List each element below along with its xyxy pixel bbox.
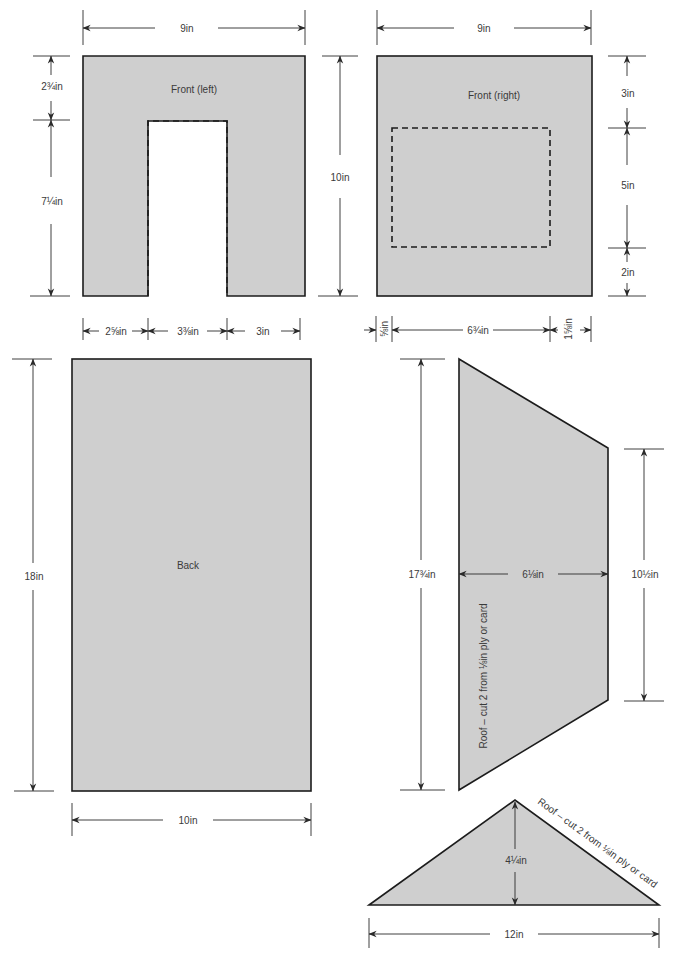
front-height-dimension: 10in — [318, 56, 358, 296]
front-right-label: Front (right) — [468, 90, 520, 101]
front-right-bottom-left-label: ⅝in — [379, 321, 390, 337]
roof-side-right-height-label: 10½in — [631, 569, 658, 580]
front-left-label: Front (left) — [171, 84, 217, 95]
back-height-label: 18in — [25, 571, 44, 582]
roof-side-left-height-label: 17¾in — [408, 569, 435, 580]
front-right-piece: Front (right) 9in 3in 5in 2in ⅝in 6¾in — [364, 10, 646, 342]
front-left-piece: Front (left) 9in 2¾in 7¼in 2⅝in 3⅜in 3in — [30, 10, 305, 340]
roof-gable-base-label: 12in — [505, 929, 524, 940]
roof-side-width-label: 6⅛in — [522, 569, 544, 580]
roof-gable-height-label: 4¼in — [505, 855, 527, 866]
front-left-doorway-cutline — [148, 121, 227, 296]
back-piece: Back 18in 10in — [12, 359, 311, 836]
front-left-width-label: 9in — [180, 23, 193, 34]
back-label: Back — [177, 560, 200, 571]
roof-side-piece: Roof – cut 2 from ⅛in ply or card 6⅛in 1… — [400, 359, 664, 790]
front-left-top-section-label: 2¾in — [41, 81, 63, 92]
roof-side-label: Roof – cut 2 from ⅛in ply or card — [478, 603, 489, 748]
cutting-diagram: Front (left) 9in 2¾in 7¼in 2⅝in 3⅜in 3in — [0, 0, 676, 965]
front-right-width-label: 9in — [477, 23, 490, 34]
front-right-top-section-label: 3in — [621, 88, 634, 99]
front-left-bottom-left-label: 2⅝in — [105, 326, 127, 337]
front-right-bottom-right-label: 1⅝in — [563, 318, 574, 340]
back-shape — [72, 359, 311, 791]
front-right-middle-section-label: 5in — [621, 180, 634, 191]
roof-gable-piece: 4¼in Roof – cut 2 from ⅛in ply or card 1… — [369, 796, 660, 948]
front-left-lower-section-label: 7¼in — [41, 196, 63, 207]
front-right-bottom-middle-label: 6¾in — [467, 325, 489, 336]
front-left-bottom-middle-label: 3⅜in — [177, 326, 199, 337]
back-width-label: 10in — [179, 815, 198, 826]
front-right-bottom-section-label: 2in — [621, 267, 634, 278]
front-left-bottom-right-label: 3in — [256, 326, 269, 337]
front-left-height-label: 10in — [331, 172, 350, 183]
